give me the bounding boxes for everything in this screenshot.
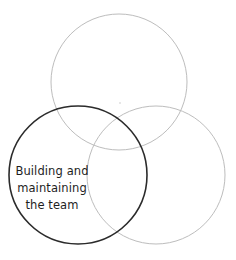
venn-circle-top — [51, 14, 187, 150]
label-line-2: maintaining — [13, 180, 91, 197]
label-line-1: Building and — [13, 163, 91, 180]
center-dot — [119, 102, 121, 104]
venn-diagram — [0, 0, 236, 260]
venn-circle-bottom-right — [87, 106, 225, 244]
label-line-3: the team — [13, 197, 91, 214]
circle-label-building-team: Building and maintaining the team — [13, 163, 91, 214]
